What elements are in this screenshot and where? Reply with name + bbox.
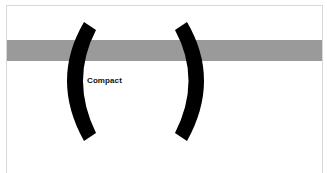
parentheses-graphic [0,0,327,173]
compact-label: Compact [87,76,122,85]
right-parenthesis-icon [175,22,204,141]
